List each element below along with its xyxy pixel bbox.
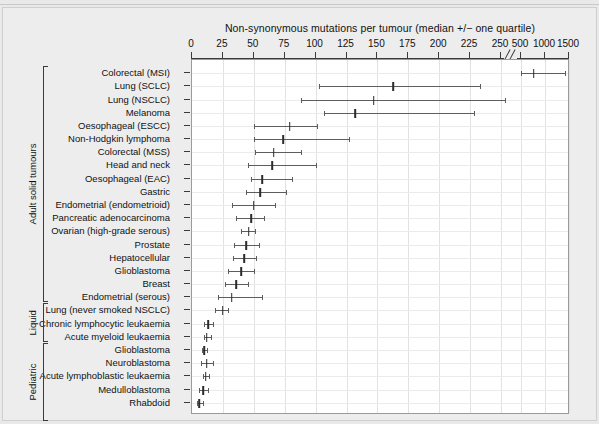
median-marker (253, 201, 255, 210)
x-tick-label: 175 (399, 38, 416, 49)
lower-quartile-cap (232, 203, 233, 208)
plot-area (191, 59, 569, 414)
category-label: Pancreatic adenocarcinoma (52, 212, 170, 223)
horizontal-gridline (192, 363, 568, 364)
category-label: Oesophageal (ESCC) (78, 119, 170, 130)
category-label: Melanoma (126, 106, 170, 117)
median-marker (393, 82, 395, 91)
category-label: Medulloblastoma (98, 383, 170, 394)
median-marker (207, 320, 209, 329)
y-tick-mark (184, 164, 190, 165)
y-tick-mark (184, 244, 190, 245)
lower-quartile-cap (521, 71, 522, 76)
lower-quartile-cap (236, 216, 237, 221)
y-tick-mark (184, 257, 190, 258)
group-label: Pediatric (27, 343, 38, 421)
x-tick-label: 1000 (533, 38, 555, 49)
category-label: Ovarian (high-grade serous) (51, 225, 170, 236)
median-marker (205, 372, 207, 381)
median-marker (354, 109, 356, 118)
figure-container: Non-synonymous mutations per tumour (med… (0, 0, 599, 424)
group-bracket (43, 303, 48, 341)
quartile-range-line (251, 179, 292, 180)
median-marker (533, 69, 535, 78)
upper-quartile-cap (208, 388, 209, 393)
category-label: Chronic lymphocytic leukaemia (39, 317, 170, 328)
y-tick-mark (184, 85, 190, 86)
upper-quartile-cap (211, 335, 212, 340)
quartile-range-line (301, 100, 505, 101)
y-tick-mark (184, 309, 190, 310)
horizontal-gridline (192, 376, 568, 377)
lower-quartile-cap (254, 124, 255, 129)
horizontal-gridline (192, 179, 568, 180)
upper-quartile-cap (480, 84, 481, 89)
upper-quartile-cap (209, 374, 210, 379)
lower-quartile-cap (228, 269, 229, 274)
x-tick-label: 100 (306, 38, 323, 49)
median-marker (273, 148, 275, 157)
median-marker (246, 241, 248, 250)
upper-quartile-cap (259, 243, 260, 248)
median-marker (206, 359, 208, 368)
category-label: Neuroblastoma (106, 357, 170, 368)
category-label: Gastric (140, 185, 170, 196)
quartile-range-line (218, 297, 262, 298)
median-marker (272, 161, 274, 170)
group-label: Liquid (27, 303, 38, 341)
category-label: Non-Hodgkin lymphoma (68, 133, 170, 144)
x-tick-label: 250 (492, 38, 509, 49)
y-tick-mark (184, 178, 190, 179)
category-label: Colorectal (MSS) (98, 146, 170, 157)
median-marker (243, 254, 245, 263)
chart-panel: Non-synonymous mutations per tumour (med… (2, 7, 597, 421)
upper-quartile-cap (228, 308, 229, 313)
median-marker (231, 293, 233, 302)
median-marker (202, 386, 204, 395)
lower-quartile-cap (234, 243, 235, 248)
figure-top-rule (0, 4, 599, 5)
x-tick-label: 25 (216, 38, 227, 49)
quartile-range-line (246, 192, 286, 193)
upper-quartile-cap (505, 98, 506, 103)
axis-title: Non-synonymous mutations per tumour (med… (191, 22, 569, 34)
x-tick-label: 1500 (557, 38, 579, 49)
category-label: Lung (NSCLC) (108, 93, 170, 104)
horizontal-gridline (192, 139, 568, 140)
group-bracket (43, 343, 48, 421)
lower-quartile-cap (201, 361, 202, 366)
category-label: Hepatocellular (109, 251, 170, 262)
y-tick-mark (184, 151, 190, 152)
horizontal-gridline (192, 324, 568, 325)
y-tick-mark (184, 72, 190, 73)
category-label: Breast (143, 278, 170, 289)
median-marker (259, 188, 261, 197)
x-tick-label: 0 (188, 38, 194, 49)
x-tick-label: 75 (278, 38, 289, 49)
category-label: Endometrial (endometrioid) (55, 199, 170, 210)
lower-quartile-cap (255, 150, 256, 155)
median-marker (222, 306, 224, 315)
lower-quartile-cap (251, 177, 252, 182)
median-marker (289, 122, 291, 131)
median-marker (251, 214, 253, 223)
category-label: Acute myeloid leukaemia (64, 330, 170, 341)
y-tick-mark (184, 349, 190, 350)
y-tick-mark (184, 375, 190, 376)
category-label: Oesophageal (EAC) (85, 172, 170, 183)
upper-quartile-cap (275, 203, 276, 208)
horizontal-gridline (192, 350, 568, 351)
lower-quartile-cap (254, 137, 255, 142)
upper-quartile-cap (254, 269, 255, 274)
upper-quartile-cap (207, 348, 208, 353)
median-marker (206, 333, 208, 342)
y-tick-mark (184, 204, 190, 205)
lower-quartile-cap (204, 322, 205, 327)
quartile-range-line (254, 126, 317, 127)
y-tick-mark (184, 389, 190, 390)
category-label: Lung (never smoked NSCLC) (45, 304, 170, 315)
quartile-range-line (254, 139, 349, 140)
x-tick-label: 125 (337, 38, 354, 49)
upper-quartile-cap (203, 401, 204, 406)
upper-quartile-cap (213, 322, 214, 327)
